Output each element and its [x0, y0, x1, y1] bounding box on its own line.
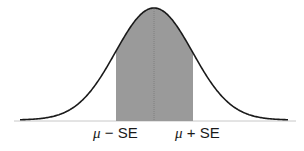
normal-curve-diagram — [0, 0, 304, 151]
minus-se-text: − SE — [101, 124, 138, 141]
label-mu-minus-se: μ − SE — [93, 124, 138, 142]
mu-symbol: μ — [93, 125, 101, 141]
label-mu-plus-se: μ + SE — [175, 124, 220, 142]
plus-se-text: + SE — [183, 124, 220, 141]
shaded-region — [116, 8, 193, 121]
mu-symbol: μ — [175, 125, 183, 141]
